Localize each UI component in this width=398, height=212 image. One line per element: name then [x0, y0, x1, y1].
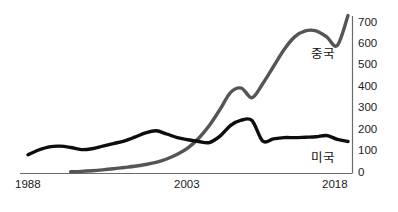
y-tick-label-300: 300 — [358, 102, 377, 114]
y-tick-label-0: 0 — [358, 167, 364, 179]
series-label-us: 미국 — [311, 152, 335, 165]
y-tick-label-600: 600 — [358, 38, 377, 50]
y-tick-label-500: 500 — [358, 59, 377, 71]
y-tick-label-200: 200 — [358, 124, 377, 136]
series-label-china: 중국 — [311, 48, 335, 61]
y-tick-label-400: 400 — [358, 81, 377, 93]
line-chart: 700 600 500 400 300 200 100 0 1988 2003 … — [0, 0, 398, 212]
x-tick-label-1988: 1988 — [15, 179, 41, 191]
series-line-china — [71, 16, 348, 172]
y-tick-label-700: 700 — [358, 17, 377, 29]
x-tick-label-2003: 2003 — [174, 179, 200, 191]
y-tick-label-100: 100 — [358, 145, 377, 157]
x-tick-label-2018: 2018 — [322, 179, 348, 191]
